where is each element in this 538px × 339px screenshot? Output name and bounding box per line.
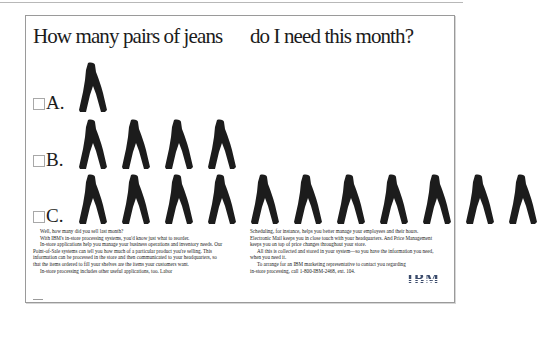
ibm-logo: IBM (407, 273, 439, 287)
jeans-icon (165, 119, 194, 171)
body-paragraph: All this is collected and stored in your… (250, 248, 440, 261)
body-paragraph: Well, how many did you sell last month? (33, 228, 223, 235)
body-copy-right: Scheduling, for instance, helps you bett… (250, 228, 440, 274)
choice-a-label: A. (46, 93, 64, 113)
jeans-icon (208, 174, 237, 226)
jeans-icon (79, 119, 108, 171)
body-paragraph: To arrange for an IBM marketing represen… (250, 261, 410, 274)
jeans-icon (79, 174, 108, 226)
top-rule (0, 2, 463, 3)
body-paragraph: In-store applications help you manage yo… (33, 241, 223, 267)
empty-checkbox-icon[interactable] (33, 211, 45, 223)
choice-a[interactable]: A. (33, 93, 64, 113)
headline-right: do I need this month? (250, 25, 413, 47)
jeans-icon (208, 119, 237, 171)
jeans-icon (79, 62, 108, 114)
jeans-icon (122, 119, 151, 171)
jeans-row-c (79, 174, 538, 226)
choice-c[interactable]: C. (33, 206, 63, 226)
jeans-icon (380, 174, 409, 226)
jeans-row-a (79, 62, 108, 114)
jeans-icon (423, 174, 452, 226)
jeans-row-b (79, 119, 237, 171)
jeans-icon (466, 174, 495, 226)
jeans-icon (251, 174, 280, 226)
body-paragraph: In-store processing includes other usefu… (33, 268, 223, 275)
printer-mark (33, 299, 43, 300)
body-paragraph: With IBM's in-store processing systems, … (33, 235, 223, 242)
empty-checkbox-icon[interactable] (33, 155, 45, 167)
jeans-icon (165, 174, 194, 226)
jeans-icon (294, 174, 323, 226)
jeans-icon (122, 174, 151, 226)
headline-left: How many pairs of jeans (33, 25, 222, 47)
choice-c-label: C. (46, 206, 63, 226)
jeans-icon (337, 174, 366, 226)
choice-b[interactable]: B. (33, 150, 63, 170)
body-paragraph: Scheduling, for instance, helps you bett… (250, 228, 440, 248)
jeans-icon (509, 174, 538, 226)
choice-b-label: B. (46, 150, 63, 170)
empty-checkbox-icon[interactable] (33, 98, 45, 110)
body-copy-left: Well, how many did you sell last month? … (33, 228, 223, 274)
